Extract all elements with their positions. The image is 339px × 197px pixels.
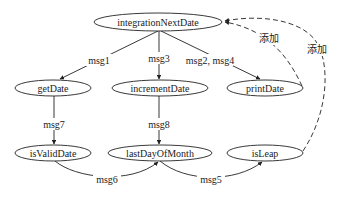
- edge-label-msg2-msg4: msg2, msg4: [186, 55, 234, 66]
- label-integrationNextDate: integrationNextDate: [117, 17, 199, 28]
- edge-label-msg3: msg3: [148, 53, 170, 64]
- edge-label-msg1: msg1: [88, 55, 110, 66]
- edge-label-msg8: msg8: [148, 119, 170, 130]
- edge-label-msg5: msg5: [200, 174, 222, 185]
- label-isValidDate: isValidDate: [30, 148, 77, 159]
- label-isLeap: isLeap: [252, 148, 279, 159]
- edge-label-add-printDate: 添加: [259, 32, 279, 44]
- label-getDate: getDate: [37, 83, 69, 94]
- call-graph-diagram: integrationNextDate getDate incrementDat…: [0, 0, 339, 197]
- edge-add-printDate: [225, 22, 302, 86]
- label-printDate: printDate: [246, 83, 284, 94]
- label-lastDayOfMonth: lastDayOfMonth: [126, 148, 194, 159]
- edge-label-add-isLeap: 添加: [307, 43, 327, 55]
- edge-label-msg6: msg6: [96, 174, 118, 185]
- label-incrementDate: incrementDate: [131, 83, 190, 94]
- edge-label-msg7: msg7: [43, 119, 65, 130]
